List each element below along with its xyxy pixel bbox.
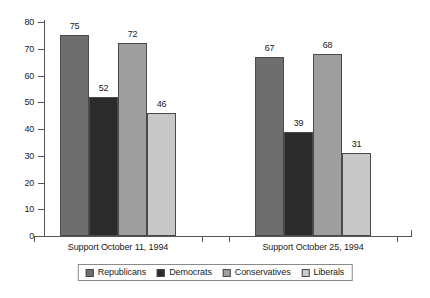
legend-label: Democrats — [169, 268, 212, 277]
y-axis-tick-label: 20 — [0, 179, 34, 188]
y-axis-tick-label: 0 — [0, 232, 34, 241]
bar — [284, 132, 313, 236]
y-axis-tick-label: 60 — [0, 72, 34, 81]
chart-legend: RepublicansDemocratsConservativesLiberal… — [78, 264, 353, 281]
bar — [118, 43, 147, 236]
legend-label: Republicans — [98, 268, 146, 277]
legend-swatch-icon — [302, 269, 310, 277]
x-axis-tick — [202, 236, 203, 242]
legend-swatch-icon — [157, 269, 165, 277]
y-axis-tick — [38, 236, 44, 237]
y-axis-tick-label: 40 — [0, 125, 34, 134]
legend-item[interactable]: Conservatives — [223, 268, 291, 277]
bar-value-label: 31 — [336, 140, 377, 149]
x-axis-tick — [229, 236, 230, 242]
bar-value-label: 46 — [141, 100, 182, 109]
legend-item[interactable]: Republicans — [86, 268, 146, 277]
bar-value-label: 75 — [54, 22, 95, 31]
bar — [255, 57, 284, 236]
y-axis-tick-label: 50 — [0, 98, 34, 107]
bar — [89, 97, 118, 236]
bar-value-label: 68 — [307, 41, 348, 50]
bar-value-label: 72 — [112, 30, 153, 39]
bar — [342, 153, 371, 236]
bar-chart: 01020304050607080 7552724667396831 Suppo… — [0, 0, 430, 298]
legend-swatch-icon — [86, 269, 94, 277]
legend-swatch-icon — [223, 269, 231, 277]
legend-item[interactable]: Liberals — [302, 268, 345, 277]
y-axis-tick-label: 30 — [0, 152, 34, 161]
x-axis-tick — [397, 236, 398, 242]
x-axis-line — [34, 236, 412, 237]
legend-label: Conservatives — [235, 268, 291, 277]
y-axis-tick-label: 80 — [0, 18, 34, 27]
y-axis-tick-label: 70 — [0, 45, 34, 54]
y-axis-tick-label: 10 — [0, 205, 34, 214]
x-axis-tick — [34, 236, 35, 242]
legend-label: Liberals — [314, 268, 345, 277]
plot-area: 7552724667396831 — [44, 22, 412, 236]
x-axis-category-label: Support October 11, 1994 — [38, 242, 198, 253]
bar — [60, 35, 89, 236]
x-axis-category-label: Support October 25, 1994 — [233, 242, 393, 253]
legend-item[interactable]: Democrats — [157, 268, 212, 277]
bar-value-label: 67 — [249, 44, 290, 53]
bar — [147, 113, 176, 236]
